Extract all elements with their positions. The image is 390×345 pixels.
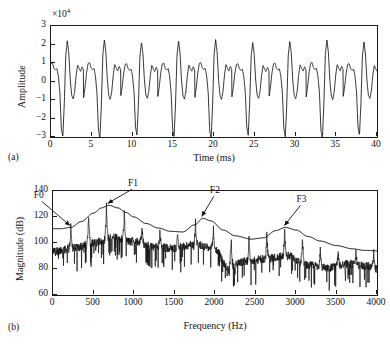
x-tick-mark [336,290,337,294]
y-tick-label: 0 [24,76,46,86]
x-tick-label: 5 [77,140,105,150]
x-tick-label: 1000 [115,298,151,308]
x-tick-mark [93,290,94,294]
y-tick-mark [53,242,57,243]
y-tick-label: 2 [24,39,46,49]
spectrum-x-axis-title: Frequency (Hz) [52,320,378,331]
y-tick-label: 80 [22,263,48,273]
y-tick-mark [51,118,55,119]
panel-a-tag: (a) [8,152,19,162]
figure-container: ×104 Amplitude Time (ms) (a) 05101520253… [0,0,390,345]
x-tick-label: 20 [199,140,227,150]
formant-label-f1: F1 [128,178,138,188]
x-tick-label: 0 [34,298,70,308]
x-tick-mark [174,290,175,294]
waveform-x-axis-title: Time (ms) [50,152,378,163]
x-tick-label: 0 [36,140,64,150]
x-tick-label: 1500 [156,298,192,308]
y-tick-mark [53,268,57,269]
panel-b-tag: (b) [8,322,19,332]
y-tick-mark [51,99,55,100]
y-tick-mark [51,136,55,137]
x-tick-mark [335,132,336,136]
x-tick-mark [132,132,133,136]
formant-label-f0: F0 [34,190,44,200]
x-tick-label: 10 [118,140,146,150]
panel-a-waveform: ×104 Amplitude Time (ms) (a) 05101520253… [0,0,390,172]
y-tick-label: 1 [24,57,46,67]
x-tick-label: 40 [362,140,390,150]
x-tick-mark [376,132,377,136]
x-tick-label: 2500 [237,298,273,308]
y-tick-label: 60 [22,289,48,299]
formant-label-f3: F3 [296,194,306,204]
y-tick-label: −3 [24,131,46,141]
y-axis-exponent-label: ×104 [52,7,70,19]
x-tick-label: 30 [281,140,309,150]
spectrum-trace [53,191,379,297]
x-tick-mark [172,132,173,136]
y-tick-label: 120 [22,211,48,221]
x-tick-label: 15 [158,140,186,150]
y-tick-mark [51,62,55,63]
spectrum-plot-area [52,190,378,296]
x-tick-label: 3500 [318,298,354,308]
x-tick-mark [213,132,214,136]
waveform-trace [51,26,379,139]
x-tick-label: 2000 [196,298,232,308]
y-tick-label: 3 [24,20,46,30]
y-tick-label: −1 [24,94,46,104]
y-tick-mark [51,81,55,82]
panel-b-spectrum: Magnitude (dB) Frequency (Hz) (b) 050010… [0,172,390,345]
x-tick-mark [214,290,215,294]
x-tick-label: 500 [75,298,111,308]
waveform-plot-area [50,25,378,138]
y-tick-mark [51,25,55,26]
y-tick-mark [51,44,55,45]
x-tick-mark [255,290,256,294]
x-tick-mark [295,132,296,136]
x-tick-label: 25 [240,140,268,150]
x-tick-label: 4000 [358,298,390,308]
y-tick-label: 100 [22,237,48,247]
x-tick-mark [254,132,255,136]
formant-label-f2: F2 [210,185,220,195]
y-tick-mark [53,190,57,191]
x-tick-mark [295,290,296,294]
y-tick-label: −2 [24,113,46,123]
x-tick-label: 3000 [277,298,313,308]
x-tick-mark [91,132,92,136]
x-tick-label: 35 [321,140,349,150]
y-tick-mark [53,216,57,217]
x-tick-mark [133,290,134,294]
y-tick-mark [53,294,57,295]
x-tick-mark [376,290,377,294]
